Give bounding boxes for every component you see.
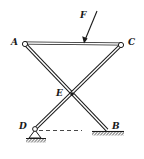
label-f: F xyxy=(80,11,86,20)
bar-cd xyxy=(35,45,121,129)
ground-b xyxy=(92,132,124,136)
pin-c xyxy=(118,42,123,47)
mechanism-svg xyxy=(0,0,144,159)
label-d: D xyxy=(19,122,27,131)
label-e: E xyxy=(56,89,63,98)
bar-ab xyxy=(25,44,107,130)
mechanism-diagram: A C E D B F xyxy=(0,0,144,159)
label-a: A xyxy=(11,38,18,47)
label-c: C xyxy=(128,38,135,47)
bar-ac xyxy=(25,43,121,44)
pin-a xyxy=(22,41,27,46)
pin-e xyxy=(70,92,74,96)
pin-support-d xyxy=(26,127,46,143)
label-b: B xyxy=(112,122,120,131)
